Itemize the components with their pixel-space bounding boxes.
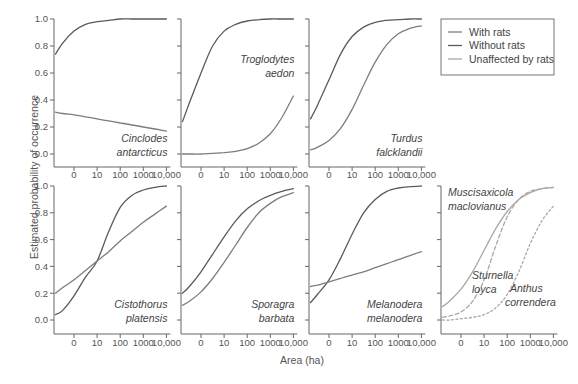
x-tick-label: 100 <box>239 169 255 180</box>
x-tick-label: 10,000 <box>407 169 436 180</box>
x-tick-label: 100 <box>367 169 383 180</box>
panel-melanodera-melanodera: 010100100010,000Melanoderamelanodera <box>305 186 436 348</box>
x-tick-label: 10,000 <box>279 337 308 348</box>
x-tick-label: 0 <box>71 169 76 180</box>
x-tick-label: 10,000 <box>279 169 308 180</box>
x-tick-label: 0 <box>458 337 463 348</box>
species-label-genus: Cistothorus <box>114 298 168 310</box>
panel-unaffected-species: 010100100010,000Muscisaxicolamaclovianus… <box>437 186 568 348</box>
curve-without-rats <box>56 19 167 54</box>
curve-with-rats <box>56 206 167 293</box>
species-label-muscisaxicola-maclovianus: Muscisaxicola <box>448 186 514 198</box>
species-label-epithet: falcklandii <box>376 146 423 158</box>
species-label-anthus-correndera: correndera <box>505 296 556 308</box>
x-tick-label: 10,000 <box>152 169 181 180</box>
panel-cistothorus-platensis: 0.00.20.40.60.81.0010100100010,000Cistot… <box>35 180 181 348</box>
x-tick-label: 0 <box>198 169 203 180</box>
x-tick-label: 100 <box>499 337 515 348</box>
species-label-epithet: platensis <box>125 312 168 324</box>
x-tick-label: 10,000 <box>152 337 181 348</box>
y-axis-title: Estimated probability of occurrence <box>28 95 40 259</box>
x-tick-label: 10 <box>92 337 103 348</box>
curve-without-rats <box>311 19 422 119</box>
x-tick-label: 100 <box>239 337 255 348</box>
x-tick-label: 10,000 <box>539 337 568 348</box>
x-tick-label: 100 <box>112 337 128 348</box>
curve-with-rats <box>311 252 422 287</box>
legend-label-unaffected: Unaffected by rats <box>469 53 554 65</box>
x-tick-label: 10 <box>347 337 358 348</box>
x-tick-label: 1000 <box>388 337 409 348</box>
x-tick-label: 1000 <box>388 169 409 180</box>
curve-without-rats <box>311 186 422 303</box>
x-tick-label: 1000 <box>520 337 541 348</box>
species-label-epithet: barbata <box>259 312 295 324</box>
species-label-epithet: aedon <box>265 67 294 79</box>
species-label-genus: Troglodytes <box>240 53 295 65</box>
x-tick-label: 10 <box>479 337 490 348</box>
y-tick-label: 0.4 <box>35 261 48 272</box>
panel-sporagra-barbata: 010100100010,000Sporagrabarbata <box>177 186 308 348</box>
x-axis-title: Area (ha) <box>280 354 324 366</box>
x-tick-label: 0 <box>326 169 331 180</box>
x-tick-label: 10 <box>219 169 230 180</box>
x-tick-label: 0 <box>198 337 203 348</box>
x-tick-label: 10 <box>92 169 103 180</box>
x-tick-label: 10 <box>219 337 230 348</box>
curve-with-rats <box>183 193 294 306</box>
species-label-genus: Melanodera <box>367 298 423 310</box>
species-label-sturnella-loyca: Sturnella <box>472 269 514 281</box>
x-tick-label: 100 <box>367 337 383 348</box>
species-label-genus: Turdus <box>390 132 423 144</box>
legend: With rats Without rats Unaffected by rat… <box>441 19 554 75</box>
species-label-genus: Cinclodes <box>121 132 168 144</box>
species-label-anthus-correndera: Anthus <box>509 282 543 294</box>
y-tick-label: 0.6 <box>35 67 48 78</box>
y-tick-label: 0.2 <box>35 288 48 299</box>
x-tick-label: 10,000 <box>407 337 436 348</box>
species-label-epithet: antarcticus <box>117 146 169 158</box>
curve-with-rats <box>183 96 294 154</box>
x-tick-label: 10 <box>347 169 358 180</box>
y-tick-label: 1.0 <box>35 13 48 24</box>
figure: 0.00.20.40.60.81.0010100100010,000Cinclo… <box>0 0 578 384</box>
species-label-sturnella-loyca: loyca <box>472 283 497 295</box>
species-label-genus: Sporagra <box>251 298 294 310</box>
panel-turdus-falcklandii: 010100100010,000Turdusfalcklandii <box>305 19 436 180</box>
x-tick-label: 1000 <box>260 169 281 180</box>
y-tick-label: 0.8 <box>35 40 48 51</box>
legend-label-without-rats: Without rats <box>469 39 525 51</box>
x-tick-label: 1000 <box>133 169 154 180</box>
x-tick-label: 100 <box>112 169 128 180</box>
curve-with-rats <box>56 112 167 131</box>
species-label-epithet: melanodera <box>367 312 423 324</box>
legend-label-with-rats: With rats <box>469 26 510 38</box>
y-tick-label: 0.0 <box>35 314 48 325</box>
panel-troglodytes-aedon: 010100100010,000Troglodytesaedon <box>177 19 308 180</box>
species-label-muscisaxicola-maclovianus: maclovianus <box>448 200 507 212</box>
x-tick-label: 0 <box>326 337 331 348</box>
panel-cinclodes-antarcticus: 0.00.20.40.60.81.0010100100010,000Cinclo… <box>35 13 181 180</box>
x-tick-label: 0 <box>71 337 76 348</box>
x-tick-label: 1000 <box>260 337 281 348</box>
x-tick-label: 1000 <box>133 337 154 348</box>
